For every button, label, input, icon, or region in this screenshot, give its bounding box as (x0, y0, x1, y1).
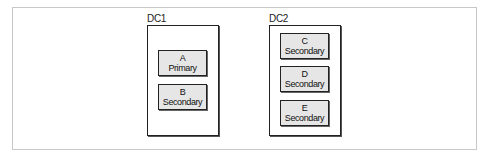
dc2-label: DC2 (269, 13, 288, 24)
node-c: C Secondary (280, 33, 329, 59)
node-b: B Secondary (158, 84, 207, 110)
node-a-name: A (180, 53, 186, 63)
node-d-name: D (301, 69, 307, 79)
node-d-role: Secondary (285, 79, 324, 89)
node-b-name: B (180, 87, 186, 97)
dc1-label: DC1 (147, 13, 166, 24)
node-c-role: Secondary (285, 46, 324, 56)
dc1-box: A Primary B Secondary (147, 25, 219, 136)
node-b-role: Secondary (163, 97, 202, 107)
node-e-role: Secondary (285, 113, 324, 123)
node-a: A Primary (158, 50, 207, 76)
dc2-box: C Secondary D Secondary E Secondary (269, 25, 341, 136)
node-d: D Secondary (280, 66, 329, 92)
node-c-name: C (301, 36, 307, 46)
node-e: E Secondary (280, 100, 329, 126)
node-e-name: E (302, 103, 308, 113)
diagram-frame (12, 7, 477, 150)
node-a-role: Primary (168, 63, 196, 73)
